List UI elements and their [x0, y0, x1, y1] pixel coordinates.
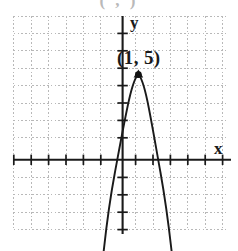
vertex-point-label: (1, 5): [117, 47, 161, 69]
graph-canvas: y x (1, 5): [0, 0, 238, 251]
x-axis-label: x: [214, 139, 223, 158]
coordinate-graph-figure: ( , ): [0, 0, 238, 251]
y-axis-label: y: [130, 13, 139, 32]
figure-background: [0, 0, 238, 251]
